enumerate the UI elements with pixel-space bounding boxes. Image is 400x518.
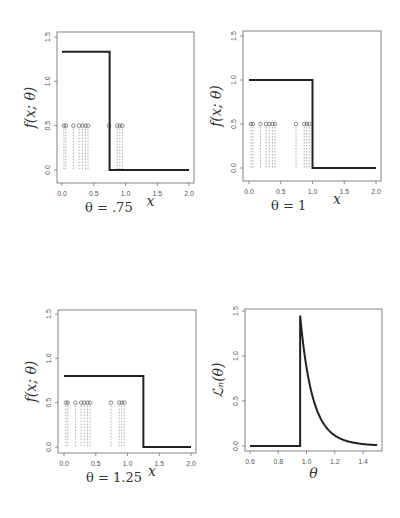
sample-point xyxy=(109,401,113,405)
plot-frame xyxy=(58,310,196,453)
sample-point xyxy=(259,122,263,126)
y-tick-label: 1.0 xyxy=(230,75,237,85)
y-tick-label: 1.5 xyxy=(230,31,237,41)
y-axis-label: ℒₙ(θ) xyxy=(210,362,226,397)
x-tick-label: 1.0 xyxy=(123,460,133,467)
y-tick-label: 0.0 xyxy=(44,165,51,175)
x-tick-label: 1.0 xyxy=(121,190,131,197)
sample-point xyxy=(74,401,78,405)
sample-point xyxy=(308,122,312,126)
y-tick-label: 1.5 xyxy=(45,309,52,319)
sample-point xyxy=(86,124,90,128)
sample-point xyxy=(121,124,125,128)
x-tick-label: 0.0 xyxy=(244,188,254,195)
x-axis-label: x xyxy=(148,463,156,479)
density-curve xyxy=(62,52,189,170)
y-tick-label: 0.5 xyxy=(232,396,239,406)
sample-point xyxy=(88,401,92,405)
y-tick-label: 1.5 xyxy=(232,306,239,316)
x-tick-label: 1.0 xyxy=(302,458,312,465)
panel-caption: θ = .75 xyxy=(85,200,133,215)
likelihood-curve xyxy=(250,316,377,447)
panel-caption: θ = 1.25 xyxy=(86,470,142,485)
x-axis-label: x xyxy=(147,193,155,209)
x-axis-label: x xyxy=(333,191,341,207)
x-tick-label: 2.0 xyxy=(371,188,381,195)
chart-panel-top-right: 0.00.51.01.52.00.00.51.01.5xf(x; θ)θ = 1 xyxy=(208,31,381,213)
y-axis-label: f(x; θ) xyxy=(208,85,224,128)
y-tick-label: 1.0 xyxy=(45,353,52,363)
chart-panel-bottom-right: 0.60.81.01.21.40.00.51.01.5θℒₙ(θ) xyxy=(210,306,382,481)
x-tick-label: 0.0 xyxy=(59,460,69,467)
y-tick-label: 0.0 xyxy=(230,163,237,173)
y-tick-label: 0.0 xyxy=(45,442,52,452)
x-tick-label: 0.0 xyxy=(57,190,67,197)
panel-caption: θ = 1 xyxy=(271,198,306,213)
chart-panel-bottom-left: 0.00.51.01.52.00.00.51.01.5xf(x; θ)θ = 1… xyxy=(23,309,196,485)
x-tick-label: 0.6 xyxy=(245,458,255,465)
y-tick-label: 1.5 xyxy=(44,32,51,42)
x-tick-label: 1.0 xyxy=(308,188,318,195)
density-curve xyxy=(64,376,191,447)
x-tick-label: 0.5 xyxy=(89,190,99,197)
figure: 0.00.51.01.52.00.00.51.01.5xf(x; θ)θ = .… xyxy=(0,0,400,518)
x-tick-label: 0.5 xyxy=(91,460,101,467)
x-axis-label: θ xyxy=(309,465,318,481)
x-tick-label: 1.2 xyxy=(330,458,340,465)
sample-point xyxy=(294,122,298,126)
x-tick-label: 0.5 xyxy=(276,188,286,195)
plot-frame xyxy=(245,309,382,451)
y-tick-label: 1.0 xyxy=(232,351,239,361)
x-tick-label: 0.8 xyxy=(273,458,283,465)
y-axis-label: f(x; θ) xyxy=(22,87,38,130)
sample-point xyxy=(72,124,76,128)
y-tick-label: 0.5 xyxy=(44,121,51,131)
sample-point xyxy=(273,122,277,126)
y-tick-label: 1.0 xyxy=(44,76,51,86)
x-tick-label: 2.0 xyxy=(184,190,194,197)
y-tick-label: 0.0 xyxy=(232,441,239,451)
chart-panel-top-left: 0.00.51.01.52.00.00.51.01.5xf(x; θ)θ = .… xyxy=(22,32,194,215)
y-axis-label: f(x; θ) xyxy=(23,361,39,404)
y-tick-label: 0.5 xyxy=(230,119,237,129)
x-tick-label: 1.4 xyxy=(358,458,368,465)
sample-point xyxy=(123,401,127,405)
x-tick-label: 2.0 xyxy=(186,460,196,467)
plot-frame xyxy=(57,32,194,183)
y-tick-label: 0.5 xyxy=(45,398,52,408)
